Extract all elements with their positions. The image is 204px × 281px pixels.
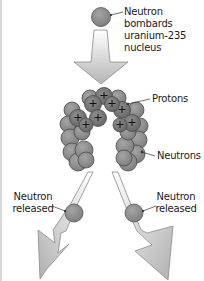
released-neutron-left bbox=[52, 204, 83, 222]
label-line: released bbox=[155, 203, 197, 215]
label-line: Neutron bbox=[155, 191, 197, 203]
neutrons-label: Neutrons bbox=[157, 150, 201, 162]
released-left-label: Neutron released bbox=[12, 191, 54, 215]
uranium-nucleus bbox=[60, 88, 148, 172]
label-line: bombards bbox=[124, 18, 186, 30]
right-fragment-arrow bbox=[112, 172, 173, 280]
label-line: released bbox=[12, 203, 54, 215]
incoming-neutron-label: Neutron bombards uranium-235 nucleus bbox=[124, 6, 186, 54]
label-line: uranium-235 bbox=[124, 30, 186, 42]
left-fragment-arrow bbox=[38, 172, 93, 279]
incoming-neutron bbox=[92, 8, 124, 27]
label-line: Neutron bbox=[124, 6, 186, 18]
released-neutron-right bbox=[125, 204, 156, 222]
label-line: Neutron bbox=[12, 191, 54, 203]
protons-label: Protons bbox=[152, 93, 188, 105]
incoming-arrow bbox=[74, 30, 128, 84]
label-line: nucleus bbox=[124, 42, 186, 54]
protons bbox=[70, 88, 141, 133]
released-right-label: Neutron released bbox=[155, 191, 197, 215]
